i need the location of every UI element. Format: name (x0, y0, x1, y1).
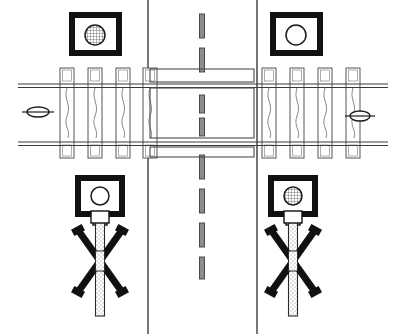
lamp-on-icon[interactable] (284, 187, 302, 205)
centerline-dash (200, 223, 205, 247)
tie-body (88, 68, 102, 158)
crossbuck-collar (284, 211, 302, 223)
railroad-tie (318, 68, 332, 158)
tie-body (116, 68, 130, 158)
centerline-dash (200, 48, 205, 72)
centerline-dash (200, 155, 205, 179)
diagram-canvas (0, 0, 406, 334)
railroad-tie (262, 68, 276, 158)
railroad-tie (88, 68, 102, 158)
lamp-on-icon[interactable] (85, 25, 105, 45)
centerline-dash (200, 118, 205, 136)
tie-body (60, 68, 74, 158)
lamp-off-icon[interactable] (286, 25, 306, 45)
tie-body (318, 68, 332, 158)
centerline-dash (200, 14, 205, 38)
tie-body (262, 68, 276, 158)
crossbuck-post-overlap (289, 251, 298, 271)
railroad-tie (290, 68, 304, 158)
railroad-crossing-diagram: Railroad Grade Crossing (0, 0, 406, 334)
railroad-tie (60, 68, 74, 158)
railroad-tie (116, 68, 130, 158)
crossbuck-post-overlap (96, 251, 105, 271)
signal-box-top-left[interactable] (69, 12, 122, 56)
lamp-off-icon[interactable] (91, 187, 109, 205)
crossbuck-collar (91, 211, 109, 223)
centerline-dash (200, 257, 205, 279)
signal-box-top-right[interactable] (270, 12, 323, 56)
centerline-dash (200, 95, 205, 113)
centerline-dash (200, 189, 205, 213)
tie-body (290, 68, 304, 158)
